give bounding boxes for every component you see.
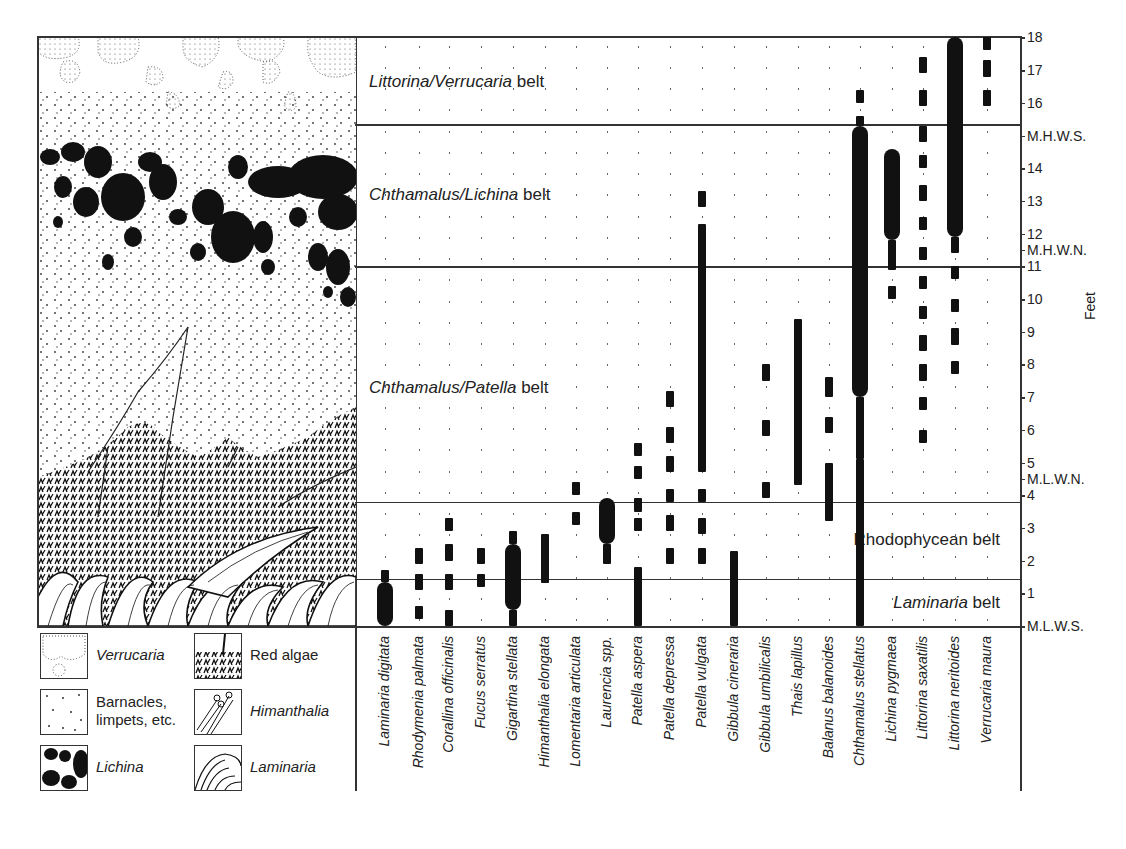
- guide-dot: [607, 131, 609, 133]
- guide-dot: [892, 301, 894, 303]
- guide-dot: [955, 386, 957, 388]
- guide-dot: [734, 216, 736, 218]
- guide-dot: [576, 258, 578, 260]
- guide-dot: [385, 322, 387, 324]
- guide-dot: [702, 513, 704, 515]
- guide-dot: [607, 386, 609, 388]
- range-bar-dash: [698, 548, 706, 564]
- guide-dot: [734, 534, 736, 536]
- guide-dot: [576, 598, 578, 600]
- species-label: Patella vulgata: [693, 636, 709, 728]
- guide-dot: [670, 343, 672, 345]
- guide-dot: [955, 492, 957, 494]
- guide-dot: [829, 619, 831, 621]
- legend-swatch-lichina: [40, 745, 88, 791]
- range-bar-dash: [919, 364, 927, 380]
- guide-dot: [449, 131, 451, 133]
- guide-dot: [481, 492, 483, 494]
- range-bar-dash: [951, 299, 959, 312]
- guide-dot: [607, 449, 609, 451]
- guide-dot: [702, 173, 704, 175]
- guide-dot: [545, 258, 547, 260]
- guide-dot: [702, 131, 704, 133]
- guide-dot: [734, 258, 736, 260]
- guide-dot: [576, 322, 578, 324]
- guide-dot: [638, 46, 640, 48]
- guide-dot: [670, 67, 672, 69]
- guide-dot: [449, 301, 451, 303]
- guide-dot: [576, 534, 578, 536]
- range-bar-dash: [572, 512, 580, 525]
- axis-tick: [1020, 168, 1025, 170]
- guide-dot: [481, 322, 483, 324]
- guide-dot: [955, 322, 957, 324]
- belt-name-italic: Littorina/Verrucaria: [369, 72, 512, 91]
- range-bar-dash: [856, 427, 864, 443]
- range-bar-thick: [377, 582, 393, 626]
- guide-dot: [545, 152, 547, 154]
- range-bar-dash: [634, 518, 642, 531]
- guide-dot: [670, 598, 672, 600]
- guide-dot: [449, 88, 451, 90]
- guide-dot: [829, 131, 831, 133]
- guide-dot: [576, 386, 578, 388]
- guide-dot: [829, 109, 831, 111]
- axis-tick: [1020, 626, 1025, 628]
- axis-tick: [1020, 364, 1025, 366]
- guide-dot: [545, 619, 547, 621]
- guide-dot: [419, 109, 421, 111]
- guide-dot: [670, 407, 672, 409]
- guide-dot: [481, 152, 483, 154]
- guide-dot: [576, 173, 578, 175]
- guide-dot: [892, 322, 894, 324]
- guide-dot: [607, 598, 609, 600]
- guide-dot: [702, 152, 704, 154]
- guide-dot: [829, 152, 831, 154]
- guide-dot: [545, 109, 547, 111]
- guide-dot: [734, 301, 736, 303]
- axis-tick-label: 12: [1027, 226, 1043, 242]
- guide-dot: [638, 194, 640, 196]
- guide-dot: [955, 471, 957, 473]
- axis-tick: [1020, 561, 1025, 563]
- guide-dot: [829, 577, 831, 579]
- axis-tick-label: 5: [1027, 455, 1035, 471]
- guide-dot: [513, 152, 515, 154]
- guide-dot: [987, 449, 989, 451]
- species-label: Gibbula cineraria: [725, 636, 741, 742]
- guide-dot: [923, 386, 925, 388]
- guide-dot: [670, 322, 672, 324]
- guide-dot: [766, 237, 768, 239]
- guide-dot: [419, 619, 421, 621]
- guide-dot: [798, 577, 800, 579]
- guide-dot: [892, 386, 894, 388]
- guide-dot: [798, 492, 800, 494]
- guide-dot: [987, 556, 989, 558]
- guide-dot: [923, 492, 925, 494]
- guide-dot: [545, 598, 547, 600]
- guide-dot: [481, 343, 483, 345]
- range-bar-thick: [852, 126, 868, 397]
- guide-dot: [513, 131, 515, 133]
- guide-dot: [385, 471, 387, 473]
- guide-dot: [481, 534, 483, 536]
- guide-dot: [607, 88, 609, 90]
- guide-dot: [513, 407, 515, 409]
- range-bar-solid: [541, 534, 549, 583]
- guide-dot: [766, 109, 768, 111]
- guide-dot: [638, 492, 640, 494]
- guide-dot: [419, 322, 421, 324]
- guide-dot: [987, 407, 989, 409]
- guide-dot: [449, 598, 451, 600]
- guide-dot: [987, 216, 989, 218]
- range-bar-solid: [698, 224, 706, 473]
- shore-illustration: [37, 37, 357, 626]
- species-label: Fucus serratus: [472, 636, 488, 729]
- guide-dot: [419, 471, 421, 473]
- guide-dot: [766, 577, 768, 579]
- axis-tick-label: 8: [1027, 356, 1035, 372]
- guide-dot: [955, 598, 957, 600]
- guide-dot: [734, 88, 736, 90]
- guide-dot: [576, 237, 578, 239]
- guide-dot: [670, 46, 672, 48]
